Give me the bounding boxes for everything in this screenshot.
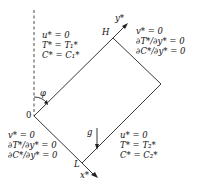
right-wall-conditions: u* = 0 T* = T₂* C* = C₂* bbox=[120, 130, 157, 160]
y-axis-label: y* bbox=[115, 13, 124, 23]
bottom-wall-condition: ∂T*/∂y* = 0 bbox=[8, 140, 57, 150]
right-wall-condition: u* = 0 bbox=[120, 130, 157, 140]
bottom-wall-conditions: v* = 0 ∂T*/∂y* = 0 ∂C*/∂y* = 0 bbox=[8, 130, 57, 160]
height-label: H bbox=[102, 27, 109, 37]
left-wall-condition: u* = 0 bbox=[42, 30, 79, 40]
bottom-wall-condition: ∂C*/∂y* = 0 bbox=[8, 150, 57, 160]
right-wall-condition: T* = T₂* bbox=[120, 140, 157, 150]
bottom-wall-condition: v* = 0 bbox=[8, 130, 57, 140]
top-wall-condition: ∂T*/∂y* = 0 bbox=[136, 36, 185, 46]
x-axis-label: x* bbox=[80, 170, 89, 180]
diagram-root: 0 H L x* y* φ g u* = 0 T* = T₁* C* = C₁*… bbox=[0, 0, 203, 187]
left-wall-condition: C* = C₁* bbox=[42, 50, 79, 60]
y-axis-arrow bbox=[113, 26, 125, 38]
left-wall-conditions: u* = 0 T* = T₁* C* = C₁* bbox=[42, 30, 79, 60]
left-wall-condition: T* = T₁* bbox=[42, 40, 79, 50]
angle-label: φ bbox=[40, 88, 46, 98]
origin-label: 0 bbox=[26, 110, 31, 120]
top-wall-condition: ∂C*/∂y* = 0 bbox=[136, 46, 185, 56]
right-wall-condition: C* = C₂* bbox=[120, 150, 157, 160]
length-label: L bbox=[74, 159, 80, 169]
top-wall-conditions: v* = 0 ∂T*/∂y* = 0 ∂C*/∂y* = 0 bbox=[136, 26, 185, 56]
gravity-label: g bbox=[87, 127, 92, 137]
top-wall-condition: v* = 0 bbox=[136, 26, 185, 36]
